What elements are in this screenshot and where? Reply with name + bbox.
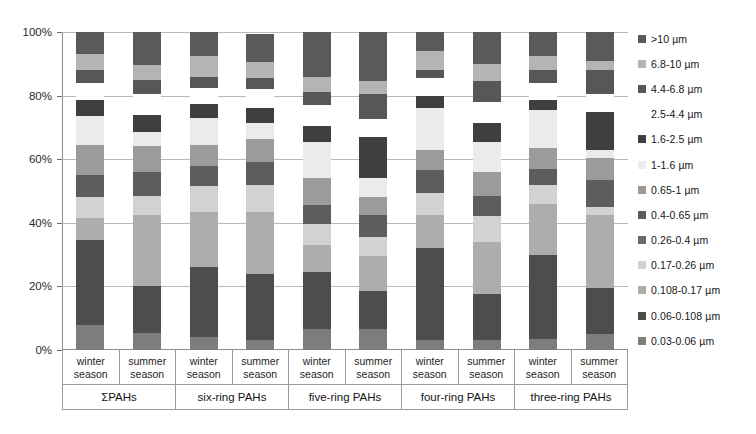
legend-swatch-icon <box>638 35 646 43</box>
x-axis-season-line: season <box>572 368 628 381</box>
stacked-bar <box>416 32 444 350</box>
bar-segment <box>586 180 614 207</box>
legend-item: 0.108-0.17 µm <box>638 278 756 303</box>
legend-label: 0.108-0.17 µm <box>651 284 720 296</box>
legend-item: 1.6-2.5 µm <box>638 127 756 152</box>
bar-segment <box>416 193 444 215</box>
bar-segment <box>190 77 218 88</box>
legend-label: 1.6-2.5 µm <box>651 133 702 145</box>
bar-segment <box>76 240 104 324</box>
bar-segment <box>359 329 387 350</box>
bar-segment <box>133 65 161 79</box>
bar-segment <box>133 115 161 132</box>
stacked-bar <box>190 32 218 350</box>
legend-label: 0.26-0.4 µm <box>651 234 708 246</box>
bar-segment <box>416 78 444 95</box>
bar-segment <box>303 126 331 142</box>
bar-segment <box>529 100 557 110</box>
bar-segment <box>76 145 104 175</box>
bar-segment <box>359 215 387 237</box>
x-axis: winterseasonsummerseasonwinterseasonsumm… <box>62 350 628 410</box>
x-axis-season-line: season <box>402 368 458 381</box>
x-axis-season-line: season <box>120 368 176 381</box>
x-axis-season-cell: winterseason <box>288 350 345 385</box>
bar-segment <box>416 340 444 350</box>
bar-segment <box>529 204 557 255</box>
y-axis-tick <box>57 96 62 97</box>
bar-segment <box>473 340 501 350</box>
bar-segment <box>359 137 387 178</box>
bar-segment <box>303 32 331 77</box>
legend-label: 0.17-0.26 µm <box>651 259 714 271</box>
bar-segment <box>133 94 161 115</box>
bar-segment <box>529 83 557 100</box>
bar-segment <box>133 32 161 65</box>
x-axis-season-line: winter <box>289 355 345 368</box>
bar-segment <box>586 288 614 334</box>
bar-segment <box>586 158 614 180</box>
legend-label: 6.8-10 µm <box>651 58 699 70</box>
bar-segment <box>76 197 104 218</box>
bar-segment <box>76 54 104 70</box>
bar-segment <box>586 32 614 61</box>
bar-segment <box>416 70 444 78</box>
legend-swatch-icon <box>638 337 646 345</box>
y-tick-label: 40% <box>29 217 52 229</box>
bar-segment <box>529 32 557 56</box>
legend-label: >10 µm <box>651 33 687 45</box>
x-axis-season-cell: winterseason <box>514 350 571 385</box>
bar-segment <box>303 92 331 105</box>
legend-swatch-icon <box>638 236 646 244</box>
bar-segment <box>303 142 331 179</box>
bar-segment <box>303 105 331 126</box>
bar-segment <box>190 337 218 350</box>
bar-segment <box>246 162 274 184</box>
legend-swatch-icon <box>638 161 646 169</box>
x-axis-season-cell: winterseason <box>175 350 232 385</box>
x-axis-season-cell: summerseason <box>119 350 176 385</box>
y-axis-tick <box>57 223 62 224</box>
bar-segment <box>416 96 444 109</box>
x-axis-season-cell: summerseason <box>458 350 515 385</box>
x-axis-season-cell: summerseason <box>232 350 289 385</box>
bar-segment <box>303 329 331 350</box>
y-tick-label: 100% <box>23 26 52 38</box>
bar-segment <box>416 170 444 192</box>
bar-segment <box>246 212 274 274</box>
bar-segment <box>529 339 557 350</box>
bar-segment <box>473 123 501 142</box>
bar-segment <box>473 242 501 294</box>
bar-segment <box>133 286 161 332</box>
stacked-bar <box>586 32 614 350</box>
x-axis-season-line: winter <box>63 355 119 368</box>
y-tick-label: 60% <box>29 153 52 165</box>
legend-label: 1-1.6 µm <box>651 159 693 171</box>
stacked-bar <box>246 32 274 350</box>
bar-segment <box>190 212 218 268</box>
bar-segment <box>133 146 161 171</box>
legend-item: 1-1.6 µm <box>638 152 756 177</box>
bar-segment <box>359 291 387 329</box>
bar-segment <box>586 112 614 150</box>
plot-area <box>62 32 628 350</box>
bar-segment <box>473 142 501 172</box>
x-axis-group-cell: ΣPAHs <box>62 385 175 410</box>
bar-segment <box>473 64 501 81</box>
x-axis-season-cell: summerseason <box>345 350 402 385</box>
bar-segment <box>190 186 218 211</box>
legend-swatch-icon <box>638 110 646 118</box>
bar-segment <box>246 89 274 108</box>
bar-segment <box>133 215 161 287</box>
bar-segment <box>246 139 274 163</box>
bar-segment <box>246 185 274 212</box>
bar-segment <box>190 32 218 56</box>
y-axis-tick <box>57 286 62 287</box>
legend-swatch-icon <box>638 60 646 68</box>
bar-segment <box>359 178 387 197</box>
bar-segment <box>190 166 218 187</box>
bar-segment <box>529 255 557 339</box>
legend-item: >10 µm <box>638 26 756 51</box>
legend-item: 2.5-4.4 µm <box>638 102 756 127</box>
bar-segment <box>303 205 331 224</box>
x-axis-season-line: season <box>233 368 289 381</box>
